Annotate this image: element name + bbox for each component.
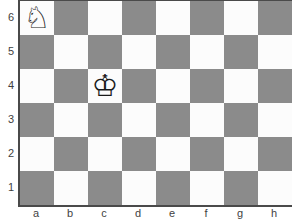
file-label-a: a bbox=[19, 206, 53, 222]
square-e4[interactable] bbox=[156, 69, 190, 103]
square-c2[interactable] bbox=[88, 137, 122, 171]
square-d5[interactable] bbox=[122, 35, 156, 69]
square-f6[interactable] bbox=[190, 1, 224, 35]
square-d3[interactable] bbox=[122, 103, 156, 137]
square-a2[interactable] bbox=[20, 137, 54, 171]
square-g1[interactable] bbox=[224, 171, 258, 205]
square-c1[interactable] bbox=[88, 171, 122, 205]
file-label-c: c bbox=[87, 206, 121, 222]
square-d6[interactable] bbox=[122, 1, 156, 35]
square-d4[interactable] bbox=[122, 69, 156, 103]
square-a3[interactable] bbox=[20, 103, 54, 137]
square-a4[interactable] bbox=[20, 69, 54, 103]
file-label-e: e bbox=[155, 206, 189, 222]
white-knight-piece[interactable]: ♘ bbox=[20, 1, 54, 35]
square-a5[interactable] bbox=[20, 35, 54, 69]
rank-labels: 654321 bbox=[0, 0, 16, 206]
file-label-d: d bbox=[121, 206, 155, 222]
square-c3[interactable] bbox=[88, 103, 122, 137]
square-e1[interactable] bbox=[156, 171, 190, 205]
square-h2[interactable] bbox=[258, 137, 292, 171]
white-king-piece[interactable]: ♔ bbox=[88, 69, 122, 103]
square-g5[interactable] bbox=[224, 35, 258, 69]
square-h4[interactable] bbox=[258, 69, 292, 103]
square-h5[interactable] bbox=[258, 35, 292, 69]
square-b5[interactable] bbox=[54, 35, 88, 69]
file-label-b: b bbox=[53, 206, 87, 222]
file-label-h: h bbox=[257, 206, 291, 222]
square-g4[interactable] bbox=[224, 69, 258, 103]
square-g3[interactable] bbox=[224, 103, 258, 137]
square-c6[interactable] bbox=[88, 1, 122, 35]
square-f1[interactable] bbox=[190, 171, 224, 205]
rank-label-6: 6 bbox=[0, 0, 14, 34]
square-c5[interactable] bbox=[88, 35, 122, 69]
chess-board: ♘♔ bbox=[18, 0, 292, 207]
square-a1[interactable] bbox=[20, 171, 54, 205]
file-label-f: f bbox=[189, 206, 223, 222]
square-e2[interactable] bbox=[156, 137, 190, 171]
square-b2[interactable] bbox=[54, 137, 88, 171]
square-g6[interactable] bbox=[224, 1, 258, 35]
square-h3[interactable] bbox=[258, 103, 292, 137]
rank-label-3: 3 bbox=[0, 102, 14, 136]
square-f4[interactable] bbox=[190, 69, 224, 103]
file-labels: abcdefgh bbox=[0, 206, 292, 222]
square-d2[interactable] bbox=[122, 137, 156, 171]
square-g2[interactable] bbox=[224, 137, 258, 171]
square-e3[interactable] bbox=[156, 103, 190, 137]
square-h1[interactable] bbox=[258, 171, 292, 205]
square-e6[interactable] bbox=[156, 1, 190, 35]
rank-label-5: 5 bbox=[0, 34, 14, 68]
square-b3[interactable] bbox=[54, 103, 88, 137]
square-b1[interactable] bbox=[54, 171, 88, 205]
square-h6[interactable] bbox=[258, 1, 292, 35]
square-b4[interactable] bbox=[54, 69, 88, 103]
rank-label-4: 4 bbox=[0, 68, 14, 102]
square-d1[interactable] bbox=[122, 171, 156, 205]
square-f5[interactable] bbox=[190, 35, 224, 69]
square-f2[interactable] bbox=[190, 137, 224, 171]
rank-label-1: 1 bbox=[0, 170, 14, 204]
square-e5[interactable] bbox=[156, 35, 190, 69]
square-b6[interactable] bbox=[54, 1, 88, 35]
chess-diagram: 654321 ♘♔ abcdefgh bbox=[0, 0, 292, 222]
rank-label-2: 2 bbox=[0, 136, 14, 170]
square-f3[interactable] bbox=[190, 103, 224, 137]
file-label-g: g bbox=[223, 206, 257, 222]
